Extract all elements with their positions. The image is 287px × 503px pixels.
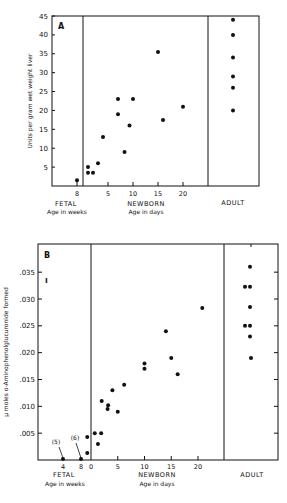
y-tick-label: 5 <box>44 164 48 172</box>
data-point <box>85 435 89 439</box>
panel-a-y-label: Units per gram wet weight liver <box>26 53 34 148</box>
x-tick-label: 8 <box>79 463 83 471</box>
data-point <box>231 108 235 112</box>
data-point <box>86 171 90 175</box>
data-point <box>164 329 168 333</box>
data-point <box>243 324 247 328</box>
data-point <box>231 18 235 22</box>
panel-a-points <box>75 18 235 183</box>
data-point <box>161 118 165 122</box>
data-point <box>231 56 235 60</box>
data-point <box>101 135 105 139</box>
data-point <box>231 86 235 90</box>
data-point <box>200 306 204 310</box>
data-point <box>99 431 103 435</box>
data-point <box>116 112 120 116</box>
data-point <box>231 74 235 78</box>
panel-b-annotation-6: (6) <box>71 434 80 441</box>
data-point <box>181 105 185 109</box>
panel-a-adult-label: ADULT <box>221 199 244 207</box>
x-tick-label: 0 <box>89 463 93 471</box>
data-point <box>169 356 173 360</box>
x-tick-label: 10 <box>129 190 137 198</box>
data-point <box>128 124 132 128</box>
data-point <box>248 324 252 328</box>
y-tick-label: 40 <box>39 31 48 39</box>
x-tick-label: 4 <box>61 463 65 471</box>
y-tick-label: .030 <box>19 296 35 304</box>
panel-b-annotation-5-arrow <box>59 447 63 458</box>
panel-b-x-axis: 4805101520 <box>61 244 251 471</box>
data-point <box>143 361 147 365</box>
x-tick-label: 20 <box>194 463 202 471</box>
panel-a-fetal-label: FETAL <box>55 200 77 208</box>
y-tick-label: .005 <box>19 430 35 438</box>
data-point <box>248 265 252 269</box>
data-point <box>116 97 120 101</box>
panel-b-fetal-label: FETAL <box>53 471 75 479</box>
data-point <box>110 388 114 392</box>
x-tick-label: 8 <box>75 190 79 198</box>
x-tick-label: 15 <box>167 463 175 471</box>
data-point <box>156 50 160 54</box>
y-tick-label: .020 <box>19 349 35 357</box>
y-tick-label: .015 <box>19 376 35 384</box>
data-point <box>91 171 95 175</box>
data-point <box>106 407 110 411</box>
data-point <box>116 410 120 414</box>
y-tick-label: 10 <box>39 145 48 153</box>
x-tick-label: 5 <box>106 190 110 198</box>
data-point <box>93 431 97 435</box>
y-tick-label: 35 <box>39 50 48 58</box>
y-tick-label: 15 <box>39 126 48 134</box>
data-point <box>106 403 110 407</box>
panel-b-y-axis: .005.010.015.020.025.030.035 <box>19 269 278 438</box>
y-tick-label: .025 <box>19 322 35 330</box>
data-point <box>248 335 252 339</box>
x-tick-label: 15 <box>154 190 162 198</box>
panel-b: .005.010.015.020.025.030.035 4805101520 … <box>2 244 278 488</box>
panel-b-mark: ı <box>45 276 48 285</box>
panel-a-fetal-sublabel: Age in weeks <box>47 208 87 216</box>
y-tick-label: 45 <box>39 13 48 21</box>
data-point <box>85 451 89 455</box>
panel-b-y-label: µ moles o-Aminophenolglucuronide formed <box>2 287 10 417</box>
y-tick-label: 20 <box>39 107 48 115</box>
data-point <box>75 178 79 182</box>
data-point <box>231 33 235 37</box>
data-point <box>248 285 252 289</box>
data-point <box>96 442 100 446</box>
data-point <box>86 165 90 169</box>
panel-b-annotation-5: (5) <box>52 438 61 445</box>
panel-b-label: B <box>44 251 50 260</box>
panel-a-newborn-label: NEWBORN <box>127 200 165 208</box>
panel-b-newborn-sublabel: Age in days <box>139 480 174 488</box>
panel-b-adult-label: ADULT <box>240 471 263 479</box>
panel-b-newborn-label: NEWBORN <box>138 471 176 479</box>
data-point <box>243 285 247 289</box>
data-point <box>96 161 100 165</box>
data-point <box>249 356 253 360</box>
figure: 51015202530354045 85101520 A FETAL Age i… <box>0 0 287 503</box>
y-tick-label: 25 <box>39 88 48 96</box>
panel-a: 51015202530354045 85101520 A FETAL Age i… <box>26 13 259 217</box>
data-point <box>176 372 180 376</box>
data-point <box>122 383 126 387</box>
data-point <box>123 150 127 154</box>
panel-b-frame <box>38 244 278 460</box>
y-tick-label: 30 <box>39 69 48 77</box>
data-point <box>143 367 147 371</box>
panel-a-x-axis: 85101520 <box>75 182 187 198</box>
x-tick-label: 10 <box>140 463 148 471</box>
panel-a-newborn-sublabel: Age in days <box>128 208 163 216</box>
data-point <box>131 97 135 101</box>
panel-a-y-axis: 51015202530354045 <box>39 13 55 172</box>
panel-b-annotation-6-arrow <box>76 443 81 458</box>
y-tick-label: .035 <box>19 269 35 277</box>
data-point <box>100 399 104 403</box>
y-tick-label: .010 <box>19 403 35 411</box>
x-tick-label: 20 <box>179 190 187 198</box>
x-tick-label: 5 <box>116 463 120 471</box>
data-point <box>248 305 252 309</box>
panel-b-fetal-sublabel: Age in weeks <box>45 480 85 488</box>
